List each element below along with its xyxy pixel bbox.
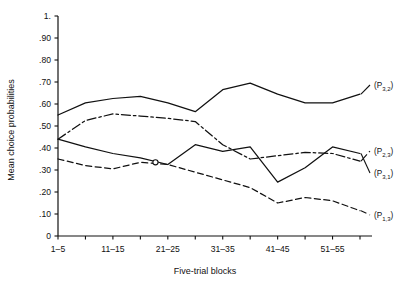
leader-line [361, 211, 370, 215]
y-tick-label: .50 [39, 121, 51, 131]
y-axis-title: Mean choice probabilities [6, 79, 16, 181]
x-tick-label: 11–15 [101, 244, 124, 254]
y-tick-label: .10 [39, 209, 51, 219]
y-tick-label: .40 [39, 143, 51, 153]
y-tick-label: .30 [39, 165, 51, 175]
y-tick-label: .90 [39, 33, 51, 43]
x-axis: 1–511–1521–2531–3541–4551–55 [51, 236, 372, 254]
y-tick-label: 0 [46, 231, 51, 241]
series-label-p23: (P2,3) [374, 147, 394, 158]
x-tick-label: 1–5 [51, 244, 66, 254]
y-axis: 1..90.80.70.60.50.40.30.20.100 [39, 11, 58, 241]
series-label-p32: (P3,2) [374, 81, 394, 92]
y-tick-label: 1. [44, 11, 51, 21]
series-label-p31: (P3,1) [374, 169, 394, 180]
series-line-p23 [58, 114, 360, 161]
chart-figure: 1..90.80.70.60.50.40.30.20.100 1–511–152… [0, 0, 420, 285]
y-tick-label: .20 [39, 187, 51, 197]
series-line-p32 [58, 83, 360, 115]
y-tick-label: .70 [39, 77, 51, 87]
series-annotations: (P3,2)(P2,3)(P3,1)(P1,3) [361, 81, 394, 222]
x-axis-title: Five-trial blocks [174, 266, 237, 276]
x-tick-label: 21–25 [156, 244, 180, 254]
y-tick-label: .80 [39, 55, 51, 65]
y-tick-label: .60 [39, 99, 51, 109]
leader-line [361, 85, 370, 94]
x-tick-label: 51–55 [321, 244, 345, 254]
x-tick-label: 41–45 [266, 244, 290, 254]
series-line-p13 [58, 159, 360, 211]
series-label-p13: (P1,3) [374, 211, 394, 222]
crossing-marker [153, 160, 158, 165]
data-series-group [58, 83, 360, 211]
line-chart: 1..90.80.70.60.50.40.30.20.100 1–511–152… [0, 0, 420, 285]
x-tick-label: 31–35 [211, 244, 235, 254]
